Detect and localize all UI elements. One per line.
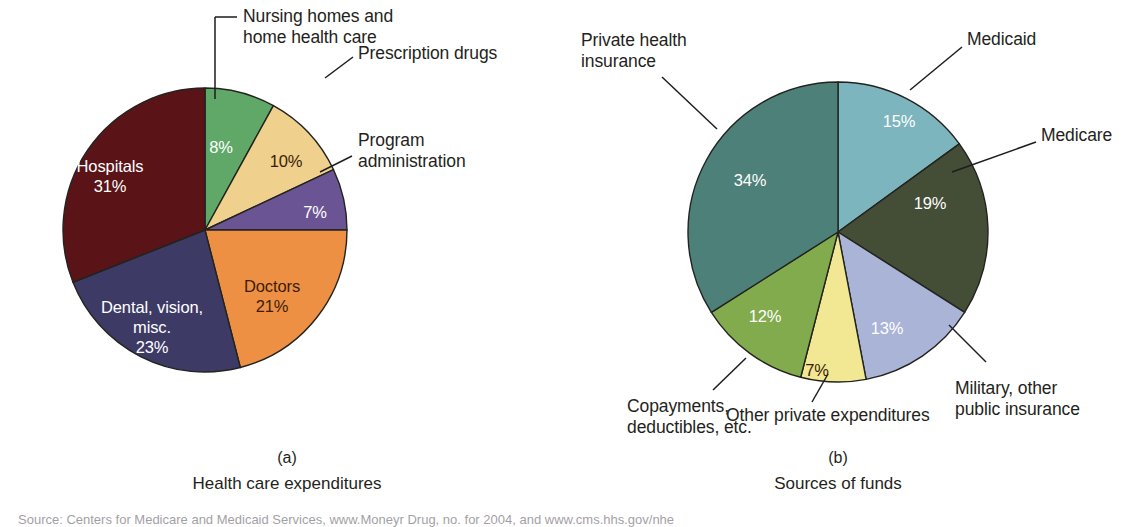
slice-callout-label: Military, other public insurance: [955, 378, 1080, 420]
callout-leader-line: [662, 77, 717, 129]
callout-leader-line: [910, 47, 962, 90]
pie-health-care-expenditures: [63, 17, 353, 372]
panel-title: Health care expenditures: [192, 474, 381, 493]
slice-callout-label: Medicaid: [967, 29, 1036, 50]
callout-leader-line: [949, 325, 986, 362]
panel-caption: (b)Sources of funds: [774, 449, 902, 494]
slice-callout-label: Nursing homes and home health care: [243, 6, 393, 48]
slice-callout-label: Private health insurance: [581, 30, 687, 72]
panel-caption: (a)Health care expenditures: [192, 449, 381, 494]
slice-callout-label: Program administration: [358, 130, 466, 172]
slice-callout-label: Other private expenditures: [726, 405, 930, 426]
pie-sources-of-funds: [662, 47, 1036, 402]
panel-letter: (a): [192, 449, 381, 467]
panel-title: Sources of funds: [774, 474, 902, 493]
callout-leader-line: [713, 358, 746, 390]
slice-callout-label: Copayments, deductibles, etc.: [627, 396, 752, 438]
slice-callout-label: Prescription drugs: [358, 43, 497, 64]
slice-callout-label: Medicare: [1041, 125, 1112, 146]
panel-letter: (b): [774, 449, 902, 467]
source-note: Source: Centers for Medicare and Medicai…: [18, 512, 674, 527]
callout-leader-line: [325, 57, 353, 78]
